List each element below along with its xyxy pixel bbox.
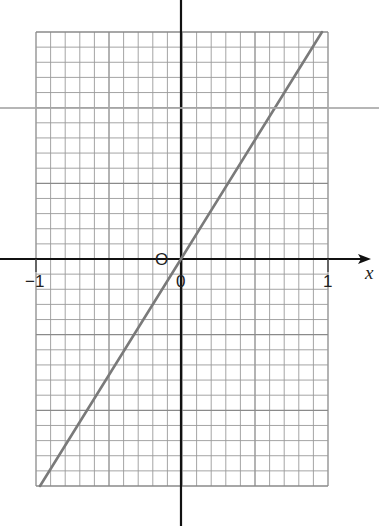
graph-canvas xyxy=(0,0,379,526)
origin-label: O xyxy=(155,251,168,268)
scan-artifact-line xyxy=(0,107,379,109)
x-axis-label: x xyxy=(365,263,373,282)
one-tick-label: 1 xyxy=(323,273,332,290)
zero-tick-label: 0 xyxy=(176,273,185,290)
minus-one-tick-label: −1 xyxy=(25,273,44,290)
